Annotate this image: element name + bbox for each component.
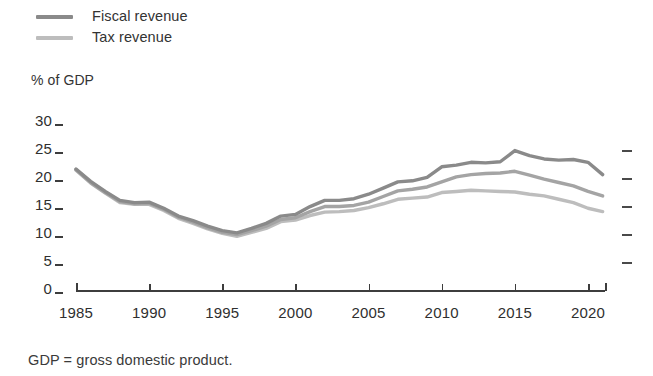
data-lines — [0, 0, 653, 376]
chart-footnote: GDP = gross domestic product. — [28, 352, 233, 368]
chart-figure: Fiscal revenue Tax revenue % of GDP 3025… — [0, 0, 653, 376]
plot-area: 302520151050 198519901995200020052010201… — [0, 0, 653, 376]
